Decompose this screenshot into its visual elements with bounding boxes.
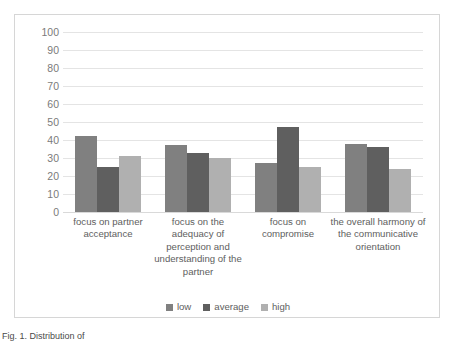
figure-caption: Fig. 1. Distribution of bbox=[2, 331, 85, 344]
bar-group bbox=[153, 32, 243, 212]
bar-group bbox=[333, 32, 423, 212]
bar-group bbox=[243, 32, 333, 212]
legend-swatch-icon bbox=[203, 304, 210, 311]
bar-high bbox=[389, 169, 411, 212]
bar-average bbox=[187, 153, 209, 212]
bar-high bbox=[299, 167, 321, 212]
y-axis-tick-label: 90 bbox=[29, 45, 59, 55]
bar-low bbox=[75, 136, 97, 212]
bar-average bbox=[97, 167, 119, 212]
y-axis-tick-label: 80 bbox=[29, 63, 59, 73]
bar-high bbox=[119, 156, 141, 212]
legend-label: average bbox=[214, 302, 249, 312]
y-axis-tick-label: 30 bbox=[29, 153, 59, 163]
y-axis-tick-label: 70 bbox=[29, 81, 59, 91]
legend-swatch-icon bbox=[166, 304, 173, 311]
x-axis-category-label: the overall harmony of the communicative… bbox=[326, 216, 430, 253]
x-axis-category-label: focus on the adequacy of perception and … bbox=[150, 216, 246, 278]
legend-item-average[interactable]: average bbox=[203, 302, 249, 312]
bar-low bbox=[165, 145, 187, 212]
chart-legend: lowaveragehigh bbox=[15, 302, 441, 312]
y-axis-tick-label: 50 bbox=[29, 117, 59, 127]
bar-average bbox=[367, 147, 389, 212]
plot-area bbox=[63, 32, 423, 212]
legend-label: high bbox=[272, 302, 290, 312]
x-axis-category-label: focus on partner acceptance bbox=[60, 216, 156, 241]
y-axis-tick-label: 100 bbox=[29, 27, 59, 37]
bar-average bbox=[277, 127, 299, 212]
figure: 0102030405060708090100 focus on partner … bbox=[0, 0, 462, 344]
y-axis: 0102030405060708090100 bbox=[29, 32, 59, 212]
bar-low bbox=[255, 163, 277, 212]
x-axis-labels: focus on partner acceptancefocus on the … bbox=[63, 216, 423, 294]
bars-layer bbox=[63, 32, 423, 212]
legend-swatch-icon bbox=[261, 304, 268, 311]
y-axis-tick-label: 60 bbox=[29, 99, 59, 109]
y-axis-tick-label: 10 bbox=[29, 189, 59, 199]
bar-low bbox=[345, 144, 367, 212]
bar-high bbox=[209, 158, 231, 212]
x-axis-category-label: focus on compromise bbox=[248, 216, 328, 241]
y-axis-tick-label: 40 bbox=[29, 135, 59, 145]
y-axis-tick-label: 20 bbox=[29, 171, 59, 181]
legend-label: low bbox=[177, 302, 191, 312]
y-axis-tick-label: 0 bbox=[29, 207, 59, 217]
gridline bbox=[63, 212, 423, 213]
legend-item-high[interactable]: high bbox=[261, 302, 290, 312]
bar-group bbox=[63, 32, 153, 212]
legend-item-low[interactable]: low bbox=[166, 302, 191, 312]
chart-frame: 0102030405060708090100 focus on partner … bbox=[14, 14, 440, 318]
